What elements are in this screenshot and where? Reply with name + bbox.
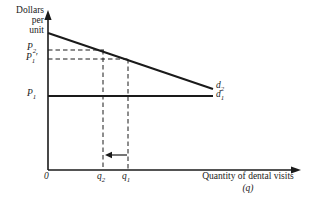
x-axis-title-variable: (q): [188, 184, 308, 194]
y-axis-title-line3: unit: [0, 26, 44, 36]
x-tick-label-q1: q1: [122, 172, 130, 183]
x-tick-label-origin: 0: [44, 172, 49, 182]
y-tick-label-p1-prime: P1′: [26, 53, 37, 64]
demand-curve-d2: [48, 33, 213, 89]
curve-label-d1: d1: [216, 90, 224, 101]
shift-arrow-icon: [105, 152, 127, 158]
y-tick-label-p1: P1: [27, 89, 36, 100]
x-axis-title: Quantity of dental visits: [188, 172, 308, 182]
y-axis-title: Dollars per unit: [0, 6, 44, 36]
x-tick-label-q2: q2: [97, 172, 105, 183]
